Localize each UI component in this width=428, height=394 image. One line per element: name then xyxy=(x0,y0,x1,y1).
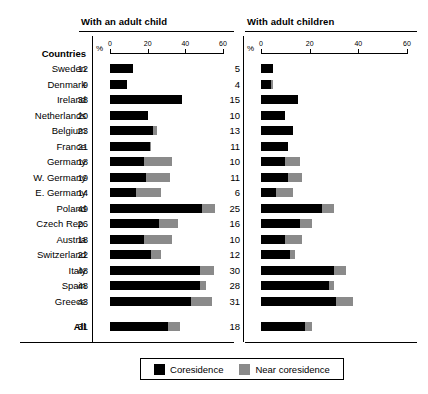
segment-near-coresidence xyxy=(305,322,312,331)
value-label-right: 12 xyxy=(222,249,240,260)
value-label-left: 49 xyxy=(70,203,88,214)
value-label-left: 21 xyxy=(70,141,88,152)
value-label-left: 48 xyxy=(70,265,88,276)
segment-coresidence xyxy=(261,95,298,104)
bar-left-austria xyxy=(110,235,172,244)
segment-near-coresidence xyxy=(334,266,346,275)
segment-near-coresidence xyxy=(150,142,152,151)
segment-near-coresidence xyxy=(159,219,178,228)
value-label-left: 48 xyxy=(70,280,88,291)
bar-right-greece xyxy=(261,297,353,306)
table-row: Poland4925 xyxy=(0,202,428,216)
bar-right-poland xyxy=(261,204,334,213)
table-row: W. Germany1911 xyxy=(0,171,428,185)
segment-coresidence xyxy=(110,64,133,73)
segment-coresidence xyxy=(110,142,150,151)
value-label-left: 20 xyxy=(70,110,88,121)
bar-right-switzerland xyxy=(261,250,295,259)
segment-near-coresidence xyxy=(144,157,172,166)
bar-right-germany xyxy=(261,157,300,166)
value-label-right: 28 xyxy=(222,280,240,291)
segment-coresidence xyxy=(261,157,285,166)
value-label-left: 23 xyxy=(70,125,88,136)
value-label-right: 10 xyxy=(222,156,240,167)
bar-right-czech-rep xyxy=(261,219,312,228)
segment-near-coresidence xyxy=(200,266,213,275)
bar-right-belgium xyxy=(261,126,293,135)
table-row: France2111 xyxy=(0,140,428,154)
segment-coresidence xyxy=(261,204,322,213)
segment-coresidence xyxy=(110,204,202,213)
segment-coresidence xyxy=(261,219,300,228)
bar-left-ireland xyxy=(110,95,182,104)
segment-coresidence xyxy=(110,111,148,120)
segment-coresidence xyxy=(110,95,182,104)
segment-coresidence xyxy=(261,266,334,275)
segment-near-coresidence xyxy=(322,204,334,213)
value-label-right: 15 xyxy=(222,94,240,105)
bar-left-spain xyxy=(110,281,206,290)
legend-label-near-coresidence: Near coresidence xyxy=(255,364,329,375)
segment-near-coresidence xyxy=(200,281,206,290)
segment-near-coresidence xyxy=(288,173,303,182)
value-label-right: 5 xyxy=(222,63,240,74)
table-row: Germany1810 xyxy=(0,155,428,169)
segment-coresidence xyxy=(261,64,273,73)
bar-right-e-germany xyxy=(261,188,293,197)
legend-item-near-coresidence: Near coresidence xyxy=(239,364,329,375)
segment-near-coresidence xyxy=(285,157,300,166)
segment-near-coresidence xyxy=(144,235,172,244)
value-label-right: 25 xyxy=(222,203,240,214)
segment-near-coresidence xyxy=(168,322,179,331)
segment-coresidence xyxy=(110,188,136,197)
segment-near-coresidence xyxy=(153,126,157,135)
table-row: Spain4828 xyxy=(0,279,428,293)
value-label-right: 18 xyxy=(222,321,240,332)
segment-coresidence xyxy=(261,80,271,89)
value-label-left: 22 xyxy=(70,249,88,260)
value-label-left: 19 xyxy=(70,172,88,183)
chart-legend: Coresidence Near coresidence xyxy=(140,358,344,380)
table-row: Netherlands2010 xyxy=(0,109,428,123)
value-label-left: 38 xyxy=(70,94,88,105)
table-row: Switzerland2212 xyxy=(0,248,428,262)
bottom-divider-right xyxy=(245,342,417,343)
segment-coresidence xyxy=(261,126,293,135)
value-label-left: 26 xyxy=(70,218,88,229)
value-label-right: 10 xyxy=(222,234,240,245)
bar-left-sweden xyxy=(110,64,133,73)
segment-coresidence xyxy=(261,142,288,151)
segment-near-coresidence xyxy=(151,250,160,259)
segment-coresidence xyxy=(261,297,336,306)
segment-near-coresidence xyxy=(290,250,295,259)
value-label-right: 6 xyxy=(222,187,240,198)
bar-right-ireland xyxy=(261,95,298,104)
table-row: Belgium2313 xyxy=(0,124,428,138)
bar-left-e-germany xyxy=(110,188,161,197)
value-label-left: 18 xyxy=(70,156,88,167)
chart-root: With an adult child With adult children … xyxy=(0,0,428,394)
segment-coresidence xyxy=(110,157,144,166)
legend-label-coresidence: Coresidence xyxy=(170,364,223,375)
chart-rows: CountriesSweden125Denmark94Ireland3815Ne… xyxy=(0,0,428,394)
segment-near-coresidence xyxy=(202,204,215,213)
segment-near-coresidence xyxy=(136,188,160,197)
bar-left-italy xyxy=(110,266,214,275)
value-label-left: 14 xyxy=(70,187,88,198)
segment-coresidence xyxy=(261,111,285,120)
segment-coresidence xyxy=(110,80,127,89)
segment-coresidence xyxy=(110,173,146,182)
segment-coresidence xyxy=(110,281,200,290)
segment-coresidence xyxy=(261,188,276,197)
bar-right-spain xyxy=(261,281,334,290)
table-row: E. Germany146 xyxy=(0,186,428,200)
table-row: Czech Rep.2616 xyxy=(0,217,428,231)
bar-left-netherlands xyxy=(110,111,148,120)
bar-left-denmark xyxy=(110,80,127,89)
value-label-left: 9 xyxy=(70,79,88,90)
value-label-right: 11 xyxy=(222,141,240,152)
value-label-right: 10 xyxy=(222,110,240,121)
value-label-right: 11 xyxy=(222,172,240,183)
bar-left-czech-rep xyxy=(110,219,178,228)
bar-left-belgium xyxy=(110,126,157,135)
